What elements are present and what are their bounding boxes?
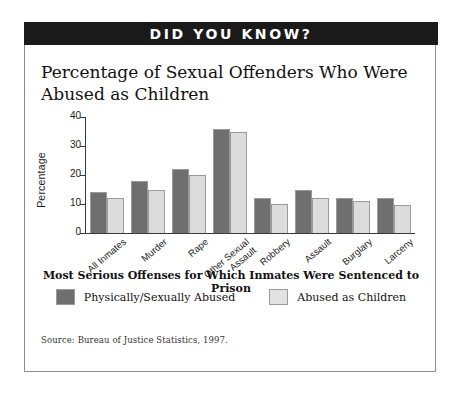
bar-group bbox=[336, 117, 370, 233]
bar bbox=[172, 169, 189, 233]
legend-item: Abused as Children bbox=[269, 289, 406, 305]
legend-swatch bbox=[269, 289, 288, 305]
bar-group bbox=[90, 117, 124, 233]
bar bbox=[312, 198, 329, 233]
chart-legend: Physically/Sexually AbusedAbused as Chil… bbox=[25, 289, 437, 305]
legend-label: Physically/Sexually Abused bbox=[84, 291, 235, 304]
bar bbox=[336, 198, 353, 233]
figure-card: Percentage of Sexual Offenders Who Were … bbox=[24, 45, 436, 372]
legend-swatch bbox=[56, 289, 75, 305]
bar-group bbox=[377, 117, 411, 233]
legend-label: Abused as Children bbox=[297, 291, 406, 304]
bar bbox=[107, 198, 124, 233]
bar bbox=[230, 132, 247, 234]
bar bbox=[189, 175, 206, 233]
did-you-know-figure: DID YOU KNOW? Percentage of Sexual Offen… bbox=[24, 22, 438, 374]
y-tick-label: 40 bbox=[70, 110, 81, 121]
bar-series-container bbox=[86, 117, 415, 233]
bar bbox=[213, 129, 230, 233]
bar bbox=[131, 181, 148, 233]
source-note: Source: Bureau of Justice Statistics, 19… bbox=[41, 335, 228, 345]
bar-group bbox=[131, 117, 165, 233]
bar-group bbox=[254, 117, 288, 233]
bar bbox=[295, 190, 312, 234]
y-tick-label: 10 bbox=[70, 197, 81, 208]
chart-title: Percentage of Sexual Offenders Who Were … bbox=[41, 61, 413, 105]
legend-item: Physically/Sexually Abused bbox=[56, 289, 235, 305]
y-tick-label: 20 bbox=[70, 168, 81, 179]
bar bbox=[377, 198, 394, 233]
y-axis-label: Percentage bbox=[35, 135, 47, 225]
bar bbox=[394, 205, 411, 233]
bar-group bbox=[213, 117, 247, 233]
y-tick-label: 30 bbox=[70, 139, 81, 150]
bar-group bbox=[295, 117, 329, 233]
banner-title: DID YOU KNOW? bbox=[150, 26, 313, 42]
bar bbox=[271, 204, 288, 233]
banner: DID YOU KNOW? bbox=[24, 22, 438, 45]
bar bbox=[254, 198, 271, 233]
y-tick-label: 0 bbox=[75, 226, 81, 237]
axes: 010203040 bbox=[85, 117, 415, 234]
x-axis-line bbox=[85, 233, 415, 234]
plot-area: Percentage 010203040 All InmatesMurderRa… bbox=[39, 117, 423, 257]
bar bbox=[353, 201, 370, 233]
bar bbox=[148, 190, 165, 234]
bar-group bbox=[172, 117, 206, 233]
bar bbox=[90, 192, 107, 233]
